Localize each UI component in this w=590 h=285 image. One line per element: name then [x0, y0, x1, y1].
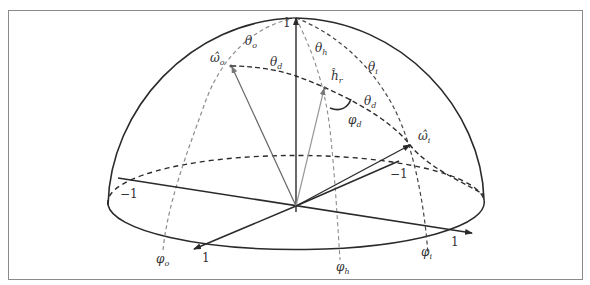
difference-great-circle	[231, 66, 484, 195]
tick-x-right: 1	[451, 235, 459, 249]
label-theta-i: θi	[368, 60, 378, 76]
tick-z-top: 1	[283, 16, 291, 30]
hemisphere-diagram: ω̂o θo θd θh θi ĥr θd φd ω̂i φo φh φi 1 …	[0, 0, 590, 285]
h-r-vector	[296, 89, 324, 206]
label-h-r: ĥr	[331, 68, 344, 85]
label-omega-o: ω̂o	[210, 51, 225, 67]
label-phi-d: φd	[348, 113, 362, 129]
tick-y-front: 1	[202, 251, 210, 265]
label-theta-d-right: θd	[364, 94, 376, 110]
label-theta-h: θh	[315, 41, 327, 57]
y-axis-back	[296, 161, 399, 206]
label-theta-o: θo	[245, 34, 257, 50]
omega-o-point	[229, 64, 232, 67]
label-theta-d-top: θd	[270, 55, 282, 71]
y-axis-front	[194, 206, 296, 249]
label-phi-i: φi	[421, 245, 432, 261]
phi-d-arc	[330, 99, 351, 110]
h-r-point	[323, 86, 326, 89]
tick-y-back: −1	[390, 167, 408, 181]
label-phi-o: φo	[156, 252, 169, 268]
label-phi-h: φh	[336, 260, 350, 276]
label-omega-i: ω̂i	[418, 129, 431, 145]
tick-x-left: −1	[120, 187, 138, 201]
omega-o-vector	[232, 67, 296, 206]
